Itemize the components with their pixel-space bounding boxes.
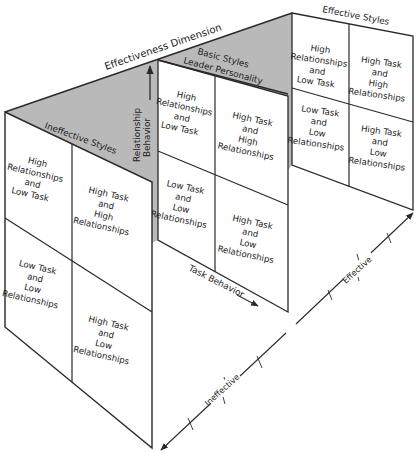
- relationship-behavior-label-line2: Behavior: [142, 118, 152, 157]
- relationship-behavior-label-line1: Relationship: [132, 108, 142, 162]
- effective-axis-label: Effective: [340, 254, 373, 285]
- effective-styles-panel: Effective Styles High Relationships and …: [287, 4, 413, 210]
- three-dimensional-leader-effectiveness-model: Effective Styles High Relationships and …: [0, 0, 417, 453]
- ineffective-axis-label: Ineffective: [203, 372, 242, 408]
